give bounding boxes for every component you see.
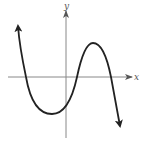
cubic-curve-left-branch	[18, 26, 26, 77]
x-axis-label: x	[134, 72, 139, 82]
cubic-curve	[26, 43, 120, 126]
y-axis-label: y	[63, 1, 70, 11]
cubic-function-graph: x y	[0, 0, 142, 143]
